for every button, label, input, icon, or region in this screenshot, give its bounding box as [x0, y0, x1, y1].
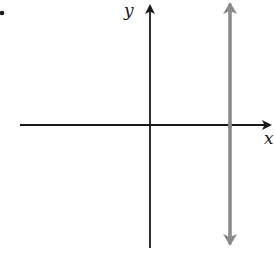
- coordinate-plane: y x: [0, 0, 275, 256]
- y-axis-label: y: [123, 0, 134, 20]
- bullet-dot: [0, 11, 4, 16]
- x-axis-label: x: [264, 128, 274, 148]
